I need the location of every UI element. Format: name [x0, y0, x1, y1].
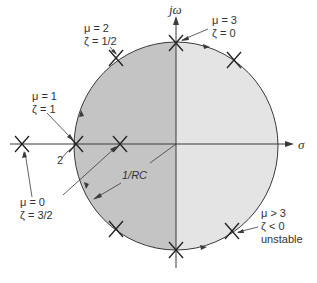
imag-axis-arrow-icon: [173, 16, 179, 25]
mu1-label-line1: μ = 1: [32, 90, 57, 102]
two-label: 2: [57, 154, 63, 166]
mu2-label-line1: μ = 2: [84, 22, 109, 34]
mu3-label-line1: μ = 3: [212, 14, 237, 26]
mu3-label-line2: ζ = 0: [212, 27, 236, 39]
imag-axis-label: jω: [167, 2, 182, 17]
unstable-label-line3: unstable: [261, 233, 303, 245]
real-axis-arrow-icon: [285, 141, 294, 147]
mu1-label-line2: ζ = 1: [32, 103, 56, 115]
mu0-label-line2: ζ = 3/2: [20, 209, 53, 221]
unstable-label-line2: ζ < 0: [261, 220, 285, 232]
real-axis-label: σ: [298, 137, 305, 152]
left-half-disk: [74, 42, 176, 250]
mu0-label-line1: μ = 0: [20, 196, 45, 208]
unstable-label-line1: μ > 3: [261, 207, 286, 219]
root-locus-diagram: jω σ 1/RC μ = 2 ζ = 1/2: [0, 0, 317, 283]
radius-label: 1/RC: [122, 169, 147, 181]
mu2-label-line2: ζ = 1/2: [84, 35, 117, 47]
